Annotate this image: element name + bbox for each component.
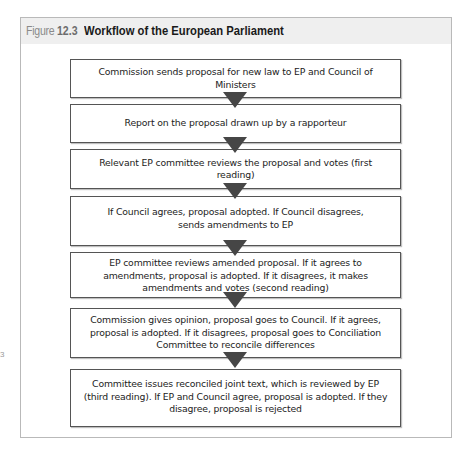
flow-step-text: Report on the proposal drawn up by a rap… — [125, 117, 347, 130]
down-arrow-icon — [223, 183, 247, 199]
flow-step-7: Committee issues reconciled joint text, … — [70, 369, 401, 427]
down-arrow-icon — [223, 240, 247, 256]
flow-step-text: Committee issues reconciled joint text, … — [83, 378, 388, 416]
down-arrow-icon — [223, 292, 247, 308]
down-arrow-icon — [223, 352, 247, 368]
down-arrow-icon — [223, 92, 247, 108]
figure-title: Workflow of the European Parliament — [84, 24, 284, 38]
flow-step-4: If Council agrees, proposal adopted. If … — [70, 196, 401, 246]
flow-step-6: Commission gives opinion, proposal goes … — [70, 308, 401, 358]
margin-fragment: 3 — [0, 350, 4, 359]
figure-number: 12.3 — [57, 24, 78, 38]
figure-label: Figure — [26, 24, 54, 38]
down-arrow-icon — [223, 137, 247, 153]
flow-step-text: Relevant EP committee reviews the propos… — [81, 157, 390, 182]
flow-step-text: EP committee reviews amended proposal. I… — [81, 257, 390, 295]
figure-caption: Figure 12.3 Workflow of the European Par… — [21, 18, 451, 44]
flow-step-text: Commission gives opinion, proposal goes … — [77, 314, 394, 352]
flow-step-text: If Council agrees, proposal adopted. If … — [101, 206, 370, 231]
flow-step-text: Commission sends proposal for new law to… — [81, 66, 390, 91]
